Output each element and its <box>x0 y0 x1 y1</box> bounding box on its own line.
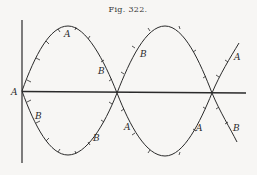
figure-322: Fig. 322. A A B B B B A A A B <box>0 0 257 175</box>
label-a-lower2: A <box>123 122 131 132</box>
wave-diagram: Fig. 322. A A B B B B A A A B <box>0 0 257 175</box>
label-b-desc: B <box>97 66 105 76</box>
label-a-end: A <box>233 52 241 62</box>
curve-a <box>22 26 239 156</box>
tick-marks <box>27 26 228 155</box>
label-b-lower1: B <box>34 111 42 121</box>
label-a-peak: A <box>63 29 71 39</box>
label-origin: A <box>10 87 18 97</box>
curve-b <box>22 26 237 155</box>
label-b-end: B <box>232 123 240 133</box>
label-b-lower2: B <box>92 133 100 143</box>
label-a-lower3: A <box>195 123 203 133</box>
figure-caption: Fig. 322. <box>109 5 148 14</box>
label-b-rise: B <box>139 49 147 59</box>
